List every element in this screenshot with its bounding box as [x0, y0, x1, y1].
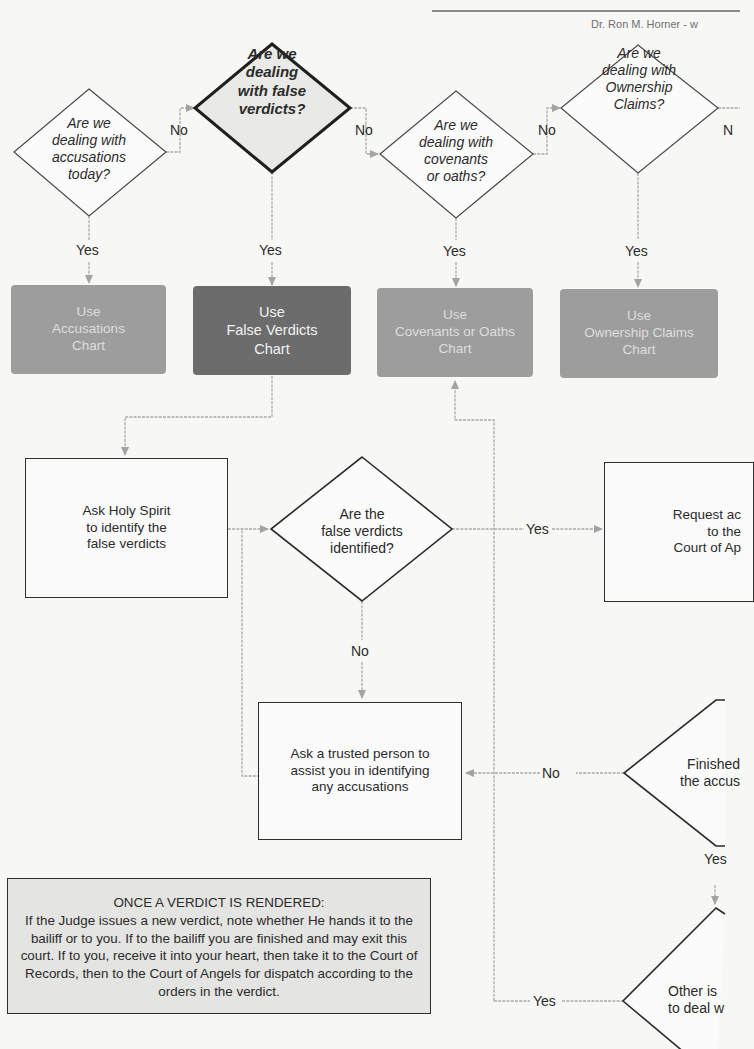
use-ownership-chart-card[interactable]: Use Ownership Claims Chart — [560, 289, 718, 378]
decision-other-issues-text: Other is to deal w — [668, 983, 740, 1017]
decision-other-shape — [623, 908, 725, 1049]
use-covenants-chart-card[interactable]: Use Covenants or Oaths Chart — [377, 288, 533, 377]
edge-label-yes: Yes — [704, 851, 727, 867]
use-accusations-chart-card[interactable]: Use Accusations Chart — [11, 285, 166, 374]
verdict-note-body: If the Judge issues a new verdict, note … — [8, 912, 430, 1001]
verdict-note-box: ONCE A VERDICT IS RENDERED: If the Judge… — [7, 878, 431, 1014]
process-request-access: Request ac to the Court of Ap — [604, 462, 754, 602]
decision-accusations-text: Are we dealing with accusations today? — [24, 115, 154, 183]
edge-label-yes: Yes — [533, 993, 556, 1009]
process-ask-trusted-person: Ask a trusted person to assist you in id… — [258, 702, 462, 840]
edge-label-yes: Yes — [526, 521, 549, 537]
decision-finished-text: Finished the accus — [660, 756, 740, 790]
edge-label-no: N — [723, 122, 733, 138]
edge-label-yes: Yes — [625, 243, 648, 259]
edge-label-no: No — [170, 122, 188, 138]
edge-label-no: No — [351, 643, 369, 659]
edge-label-no: No — [538, 122, 556, 138]
verdict-note-title: ONCE A VERDICT IS RENDERED: — [8, 894, 430, 912]
decision-false-verdicts-text: Are we dealing with false verdicts? — [207, 45, 337, 118]
process-request-access-text: Request ac to the Court of Ap — [605, 507, 741, 558]
decision-ownership-text: Are we dealing with Ownership Claims? — [574, 45, 704, 113]
use-false-verdicts-chart-card[interactable]: Use False Verdicts Chart — [193, 286, 351, 375]
decision-covenants-text: Are we dealing with covenants or oaths? — [391, 117, 521, 185]
decision-identified-text: Are the false verdicts identified? — [297, 506, 427, 557]
edge-label-yes: Yes — [259, 242, 282, 258]
process-ask-holy-spirit: Ask Holy Spirit to identify the false ve… — [25, 458, 228, 598]
edge-label-no: No — [355, 122, 373, 138]
edge-label-yes: Yes — [76, 242, 99, 258]
edge-label-yes: Yes — [443, 243, 466, 259]
edge-label-no: No — [542, 765, 560, 781]
